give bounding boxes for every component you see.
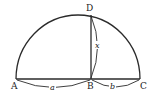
diagram-canvas: A B C D a b x	[0, 0, 154, 93]
label-segment-a: a	[50, 83, 55, 92]
label-point-b: B	[87, 81, 94, 91]
label-point-c: C	[140, 81, 147, 91]
label-point-a: A	[10, 81, 18, 91]
label-segment-b: b	[110, 82, 115, 91]
label-segment-x: x	[95, 41, 100, 50]
semicircle-arc	[16, 15, 140, 79]
label-point-d: D	[86, 3, 93, 13]
